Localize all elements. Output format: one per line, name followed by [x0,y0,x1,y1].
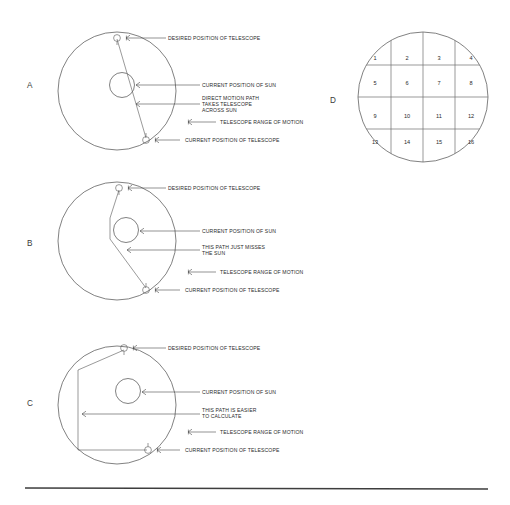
panel-a-letter: A [27,81,33,90]
panel-a-label-current: CURRENT POSITION OF TELESCOPE [185,137,280,143]
panel-c-leader-range [188,429,216,435]
panel-a-label-desired: DESIRED POSITION OF TELESCOPE [168,35,261,41]
panel-c-label-path-2: TO CALCULATE [202,413,242,419]
bottom-divider [25,488,488,489]
panel-d-cell-4: 4 [469,55,472,61]
panel-b-desired-marker [116,185,123,195]
panel-d-cell-7: 7 [437,80,440,86]
panel-b-bent-path [110,190,146,288]
panel-b-sun-circle [114,218,139,243]
panel-a-label-sun: CURRENT POSITION OF SUN [202,82,276,88]
panel-b-leader-path [127,247,200,253]
panel-a-leader-path [136,101,200,107]
panel-d-cell-10: 10 [404,113,410,119]
panel-c-range-circle [58,346,176,464]
panel-d-cell-2: 2 [405,55,408,61]
panel-b-label-current: CURRENT POSITION OF TELESCOPE [185,287,280,293]
panel-c-label-range: TELESCOPE RANGE OF MOTION [220,429,304,435]
panel-a-leader-range [188,119,216,125]
panel-c-label-current: CURRENT POSITION OF TELESCOPE [185,447,280,453]
panel-c-sun-circle [116,379,141,404]
panel-d-cell-6: 6 [405,80,408,86]
panel-a-current-marker [143,133,150,143]
panel-b-leader-current [155,287,180,293]
panel-c-leader-sun [142,389,200,395]
panel-c: C DESIRED POSITION OF TELESCOPE CURRENT … [27,345,304,464]
panel-d-cell-9: 9 [373,113,376,119]
panel-d-cell-16: 16 [468,139,474,145]
panel-a-direct-path [117,39,146,138]
panel-d-cell-1: 1 [373,55,376,61]
panel-d-cell-8: 8 [469,80,472,86]
panel-a-leader-sun [136,82,200,88]
panel-b-label-path-2: THE SUN [202,250,225,256]
panel-a-range-circle [58,32,176,150]
panel-b-leader-range [188,269,216,275]
panel-c-leader-current [157,447,180,453]
panel-b-label-desired: DESIRED POSITION OF TELESCOPE [168,185,261,191]
panel-d-cell-5: 5 [373,80,376,86]
panel-d-letter: D [330,96,336,105]
panel-d-cell-13: 13 [372,139,378,145]
panel-a-leader-current [155,137,180,143]
panel-b-label-sun: CURRENT POSITION OF SUN [202,228,276,234]
panel-b: B DESIRED POSITION OF TELESCOPE CURRENT … [27,182,304,300]
panel-b-letter: B [27,239,33,248]
panel-b-label-range: TELESCOPE RANGE OF MOTION [220,269,304,275]
panel-a-label-range: TELESCOPE RANGE OF MOTION [220,119,304,125]
panel-c-leader-path [82,411,200,417]
panel-d-cell-14: 14 [404,139,410,145]
panel-b-leader-sun [140,228,200,234]
panel-c-label-sun: CURRENT POSITION OF SUN [202,389,276,395]
telescope-path-figure: A DESIRED POSITION OF TELESCOPE CU [0,0,510,505]
panel-b-range-circle [58,182,176,300]
panel-d-cell-12: 12 [468,113,474,119]
panel-d: D 1 2 3 4 5 6 7 8 9 10 11 12 13 14 15 1 [330,32,488,162]
panel-d-cell-11: 11 [436,113,442,119]
panel-d-cell-15: 15 [436,139,442,145]
panel-a: A DESIRED POSITION OF TELESCOPE CU [27,32,304,150]
panel-c-current-marker [145,443,152,453]
panel-c-letter: C [27,399,33,408]
panel-c-label-desired: DESIRED POSITION OF TELESCOPE [168,345,261,351]
panel-d-cell-3: 3 [437,55,440,61]
panel-a-label-path-3: ACROSS SUN [202,107,237,113]
